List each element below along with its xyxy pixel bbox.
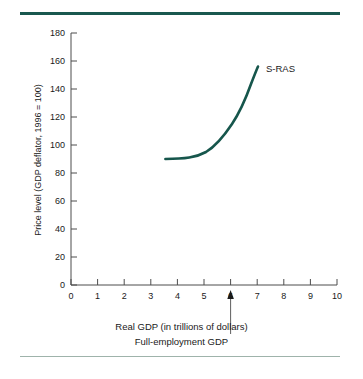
- y-axis-title: Price level (GDP deflator, 1996 = 100): [33, 50, 43, 270]
- y-tick-label-20: 20: [39, 253, 65, 262]
- full-employment-label: Full-employment GDP: [0, 336, 363, 347]
- x-tick-marks: [71, 279, 337, 285]
- x-tick-label-6: 6: [221, 292, 241, 301]
- x-tick-label-9: 9: [300, 292, 320, 301]
- s-ras-curve-label: S-RAS: [266, 64, 295, 74]
- y-tick-label-0: 0: [39, 281, 65, 290]
- x-axis-caption: Real GDP (in trillions of dollars): [0, 321, 363, 332]
- chart-plot-area: Price level (GDP deflator, 1996 = 100) 0…: [0, 0, 363, 379]
- s-ras-curve: [165, 67, 258, 160]
- figure-container: Price level (GDP deflator, 1996 = 100) 0…: [0, 0, 363, 379]
- x-tick-label-2: 2: [114, 292, 134, 301]
- y-tick-label-40: 40: [39, 225, 65, 234]
- x-tick-label-5: 5: [194, 292, 214, 301]
- x-tick-label-3: 3: [141, 292, 161, 301]
- y-tick-label-140: 140: [39, 85, 65, 94]
- y-tick-label-160: 160: [39, 57, 65, 66]
- y-tick-label-180: 180: [39, 29, 65, 38]
- y-tick-label-60: 60: [39, 197, 65, 206]
- x-tick-label-1: 1: [88, 292, 108, 301]
- x-tick-label-10: 10: [327, 292, 347, 301]
- y-tick-marks: [71, 33, 77, 285]
- x-tick-label-4: 4: [167, 292, 187, 301]
- y-tick-label-100: 100: [39, 141, 65, 150]
- x-tick-label-8: 8: [274, 292, 294, 301]
- x-tick-label-7: 7: [247, 292, 267, 301]
- y-tick-label-120: 120: [39, 113, 65, 122]
- x-tick-label-0: 0: [61, 292, 81, 301]
- y-tick-label-80: 80: [39, 169, 65, 178]
